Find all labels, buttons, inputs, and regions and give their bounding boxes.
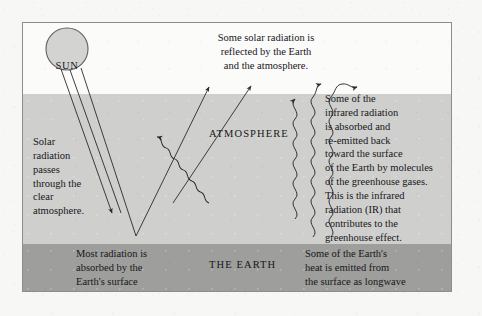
annotation-reflected-radiation: Some solar radiation is reflected by the… bbox=[191, 31, 341, 73]
annotation-solar-radiation-passes: Solar radiation passes through the clear… bbox=[33, 135, 113, 218]
greenhouse-effect-figure: SUN Some solar radiation is reflected by… bbox=[22, 22, 452, 292]
atmosphere-label: ATMOSPHERE bbox=[209, 127, 319, 141]
sun-label: SUN bbox=[41, 59, 93, 73]
annotation-most-radiation-absorbed: Most radiation is absorbed by the Earth'… bbox=[76, 247, 196, 292]
earth-label: THE EARTH bbox=[209, 258, 309, 272]
annotation-absorbed-reemitted: Some of the infrared radiation is absorb… bbox=[325, 92, 451, 244]
annotation-earth-heat-emitted: Some of the Earth's heat is emitted from… bbox=[305, 247, 445, 292]
page-background: SUN Some solar radiation is reflected by… bbox=[0, 0, 482, 316]
